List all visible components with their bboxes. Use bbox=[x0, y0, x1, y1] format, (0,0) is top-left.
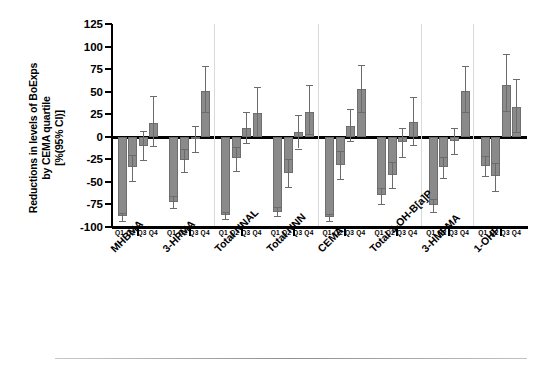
errorbar-cap-upper bbox=[119, 213, 126, 214]
y-tick--50 bbox=[105, 181, 112, 183]
errorbar-cap-lower bbox=[295, 149, 302, 150]
errorbar-cap-lower bbox=[399, 157, 406, 158]
errorbar-cap-upper bbox=[202, 66, 209, 67]
bottom-rule bbox=[55, 358, 527, 359]
errorbar-cap-lower bbox=[170, 208, 177, 209]
errorbar-cap-upper bbox=[451, 128, 458, 129]
errorbar-cap-lower bbox=[492, 191, 499, 192]
errorbar-cap-lower bbox=[222, 219, 229, 220]
errorbar-3-HMPMA-Q3 bbox=[454, 128, 455, 154]
y-tick--100 bbox=[105, 226, 112, 228]
y-tick-label--75: -75 bbox=[86, 198, 103, 210]
errorbar-cap-lower bbox=[285, 187, 292, 188]
y-tick-label-125: 125 bbox=[84, 18, 103, 30]
errorbar-cap-upper bbox=[192, 126, 199, 127]
errorbar-CEMA-Q2 bbox=[340, 151, 341, 179]
y-tick-25 bbox=[105, 113, 112, 115]
errorbar-MHBMA-Q1 bbox=[122, 213, 123, 221]
errorbar-cap-upper bbox=[399, 128, 406, 129]
chart-figure: Reductions in levels of BoExps by CEMA q… bbox=[0, 0, 545, 369]
y-axis-title-line1: Reductions in levels of BoExps bbox=[27, 23, 40, 253]
bar-Total-3-OH-B-a-P-Q1 bbox=[377, 137, 386, 196]
errorbar-cap-upper bbox=[347, 109, 354, 110]
errorbar-cap-upper bbox=[326, 214, 333, 215]
errorbar-cap-upper bbox=[150, 96, 157, 97]
errorbar-cap-lower bbox=[440, 178, 447, 179]
errorbar-Total-3-OH-B-a-P-Q4 bbox=[413, 97, 414, 145]
errorbar-cap-lower bbox=[482, 176, 489, 177]
errorbar-Total-NNAL-Q1 bbox=[225, 212, 226, 219]
y-tick--75 bbox=[105, 203, 112, 205]
errorbar-cap-lower bbox=[503, 111, 510, 112]
errorbar-cap-lower bbox=[202, 112, 209, 113]
errorbar-1-OHP-Q2 bbox=[495, 163, 496, 191]
y-axis-title: Reductions in levels of BoExps by CEMA q… bbox=[27, 23, 67, 253]
y-tick-50 bbox=[105, 91, 112, 93]
errorbar-Total-3-OH-B-a-P-Q3 bbox=[402, 128, 403, 157]
errorbar-cap-upper bbox=[378, 188, 385, 189]
bar-MHBMA-Q1 bbox=[118, 137, 127, 216]
errorbar-cap-lower bbox=[337, 179, 344, 180]
errorbar-cap-upper bbox=[410, 97, 417, 98]
errorbar-cap-upper bbox=[170, 196, 177, 197]
errorbar-cap-upper bbox=[285, 159, 292, 160]
y-tick-label--100: -100 bbox=[80, 221, 103, 233]
errorbar-cap-upper bbox=[243, 112, 250, 113]
errorbar-cap-upper bbox=[503, 54, 510, 55]
errorbar-3-HPMA-Q3 bbox=[195, 126, 196, 152]
errorbar-Total-NNAL-Q3 bbox=[246, 112, 247, 143]
errorbar-cap-lower bbox=[119, 221, 126, 222]
errorbar-3-HPMA-Q4 bbox=[205, 66, 206, 112]
errorbar-1-OHP-Q4 bbox=[516, 79, 517, 132]
y-tick-125 bbox=[105, 23, 112, 25]
errorbar-cap-lower bbox=[306, 134, 313, 135]
bar-Total-NNN-Q1 bbox=[273, 137, 282, 212]
errorbar-cap-lower bbox=[254, 136, 261, 137]
y-axis-title-line2: by CEMA quartile bbox=[40, 23, 53, 253]
plot-area: 1251007550250-25-50-75-100 bbox=[112, 24, 527, 227]
errorbar-Total-NNAL-Q4 bbox=[257, 87, 258, 136]
errorbar-cap-lower bbox=[181, 172, 188, 173]
errorbar-MHBMA-Q4 bbox=[153, 96, 154, 146]
errorbar-cap-upper bbox=[140, 131, 147, 132]
group-separator-4 bbox=[318, 24, 319, 227]
errorbar-1-OHP-Q1 bbox=[485, 156, 486, 177]
errorbar-cap-lower bbox=[462, 112, 469, 113]
errorbar-cap-lower bbox=[389, 188, 396, 189]
errorbar-cap-lower bbox=[358, 112, 365, 113]
errorbar-cap-upper bbox=[513, 79, 520, 80]
y-tick-label-25: 25 bbox=[90, 108, 103, 120]
errorbar-cap-lower bbox=[274, 216, 281, 217]
bar-Total-NNAL-Q1 bbox=[221, 137, 230, 215]
errorbar-Total-NNN-Q2 bbox=[288, 159, 289, 187]
y-tick-label-75: 75 bbox=[90, 63, 103, 75]
errorbar-cap-lower bbox=[451, 154, 458, 155]
errorbar-Total-NNAL-Q2 bbox=[236, 147, 237, 171]
errorbar-cap-lower bbox=[513, 132, 520, 133]
y-tick-label-50: 50 bbox=[90, 86, 103, 98]
errorbar-cap-lower bbox=[233, 171, 240, 172]
y-tick-75 bbox=[105, 68, 112, 70]
errorbar-cap-upper bbox=[129, 155, 136, 156]
y-tick-label--25: -25 bbox=[86, 153, 103, 165]
errorbar-cap-upper bbox=[482, 156, 489, 157]
y-tick-label-100: 100 bbox=[84, 41, 103, 53]
y-axis-title-line3: [%(95% CI)] bbox=[53, 23, 66, 253]
bar-CEMA-Q1 bbox=[325, 137, 334, 217]
errorbar-Total-NNN-Q4 bbox=[309, 85, 310, 134]
errorbar-MHBMA-Q3 bbox=[143, 131, 144, 160]
errorbar-Total-NNN-Q1 bbox=[277, 207, 278, 216]
errorbar-cap-upper bbox=[274, 207, 281, 208]
errorbar-3-HMPMA-Q1 bbox=[433, 199, 434, 212]
errorbar-cap-upper bbox=[492, 163, 499, 164]
errorbar-cap-lower bbox=[347, 141, 354, 142]
bar-3-HPMA-Q1 bbox=[169, 137, 178, 202]
errorbar-Total-3-OH-B-a-P-Q1 bbox=[381, 188, 382, 203]
errorbar-cap-upper bbox=[306, 85, 313, 86]
y-axis-title-line2-text: by CEMA quartile bbox=[40, 96, 52, 179]
errorbar-cap-lower bbox=[129, 181, 136, 182]
errorbar-cap-upper bbox=[181, 149, 188, 150]
errorbar-3-HMPMA-Q2 bbox=[443, 157, 444, 179]
errorbar-CEMA-Q3 bbox=[350, 109, 351, 141]
y-tick-label-0: 0 bbox=[97, 131, 103, 143]
